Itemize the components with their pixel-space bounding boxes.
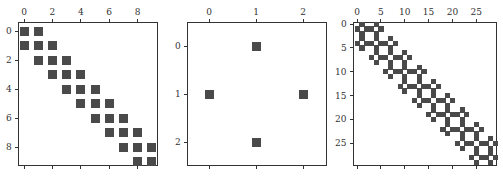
nonzero-marker [105, 128, 114, 137]
nonzero-marker [34, 27, 43, 36]
nonzero-marker [299, 90, 308, 99]
nonzero-marker [105, 114, 114, 123]
tick-mark [209, 166, 210, 169]
nonzero-marker [388, 74, 393, 79]
tick-mark [303, 166, 304, 169]
nonzero-marker [450, 98, 455, 103]
nonzero-marker [493, 141, 498, 146]
nonzero-marker [147, 157, 156, 166]
y-tick-label: 2 [175, 138, 181, 147]
nonzero-marker [445, 131, 450, 136]
tick-mark [184, 46, 187, 47]
nonzero-marker [479, 127, 484, 132]
tick-mark [15, 31, 18, 32]
tick-mark [24, 166, 25, 169]
nonzero-marker [133, 157, 142, 166]
x-tick-label: 8 [135, 8, 141, 17]
tick-mark [52, 166, 53, 169]
nonzero-marker [378, 26, 383, 31]
y-tick-label: 8 [6, 143, 12, 152]
tick-mark [404, 19, 405, 22]
nonzero-marker [105, 99, 114, 108]
nonzero-marker [252, 138, 261, 147]
tick-mark [109, 166, 110, 169]
y-tick-label: 4 [6, 85, 12, 94]
nonzero-marker [464, 112, 469, 117]
tick-mark [52, 19, 53, 22]
tick-mark [184, 94, 187, 95]
y-tick-label: 25 [335, 139, 346, 148]
x-tick-label: 0 [354, 8, 360, 17]
tick-mark [15, 147, 18, 148]
y-tick-label: 6 [6, 114, 12, 123]
y-tick-label: 0 [6, 27, 12, 36]
tick-mark [404, 166, 405, 169]
tick-mark [15, 118, 18, 119]
tick-mark [476, 166, 477, 169]
nonzero-marker [91, 99, 100, 108]
tick-mark [209, 19, 210, 22]
nonzero-marker [407, 55, 412, 60]
tick-mark [350, 119, 353, 120]
nonzero-marker [119, 143, 128, 152]
nonzero-marker [402, 88, 407, 93]
tick-mark [15, 89, 18, 90]
nonzero-marker [62, 85, 71, 94]
nonzero-marker [34, 56, 43, 65]
nonzero-marker [493, 155, 498, 160]
nonzero-marker [417, 103, 422, 108]
tick-mark [256, 19, 257, 22]
nonzero-marker [359, 45, 364, 50]
axes-box [353, 22, 497, 166]
tick-mark [380, 166, 381, 169]
x-tick-label: 2 [50, 8, 56, 17]
tick-mark [137, 166, 138, 169]
nonzero-marker [119, 114, 128, 123]
x-tick-label: 0 [21, 8, 27, 17]
nonzero-marker [91, 114, 100, 123]
x-tick-label: 0 [206, 8, 212, 17]
nonzero-marker [48, 56, 57, 65]
x-tick-label: 10 [399, 8, 410, 17]
nonzero-marker [34, 41, 43, 50]
tick-mark [80, 166, 81, 169]
tick-mark [428, 19, 429, 22]
tick-mark [109, 19, 110, 22]
y-tick-label: 20 [335, 115, 346, 124]
tick-mark [80, 19, 81, 22]
tick-mark [350, 71, 353, 72]
tick-mark [380, 19, 381, 22]
tick-mark [357, 19, 358, 22]
nonzero-marker [252, 42, 261, 51]
y-tick-label: 1 [175, 90, 181, 99]
y-tick-label: 10 [335, 67, 346, 76]
tick-mark [350, 47, 353, 48]
nonzero-marker [76, 70, 85, 79]
y-tick-label: 0 [175, 42, 181, 51]
tick-mark [452, 19, 453, 22]
tick-mark [303, 19, 304, 22]
nonzero-marker [460, 146, 465, 151]
nonzero-marker [147, 143, 156, 152]
nonzero-marker [374, 60, 379, 65]
nonzero-marker [474, 160, 479, 165]
nonzero-marker [91, 85, 100, 94]
x-tick-label: 5 [378, 8, 384, 17]
tick-mark [452, 166, 453, 169]
nonzero-marker [133, 128, 142, 137]
tick-mark [137, 19, 138, 22]
x-tick-label: 2 [300, 8, 306, 17]
nonzero-marker [488, 160, 493, 165]
y-tick-label: 0 [341, 20, 347, 29]
tick-mark [15, 60, 18, 61]
nonzero-marker [62, 56, 71, 65]
x-tick-label: 6 [106, 8, 112, 17]
y-tick-label: 5 [341, 43, 347, 52]
x-tick-label: 4 [78, 8, 84, 17]
tick-mark [256, 166, 257, 169]
tick-mark [24, 19, 25, 22]
tick-mark [350, 24, 353, 25]
nonzero-marker [20, 27, 29, 36]
nonzero-marker [431, 117, 436, 122]
tick-mark [350, 143, 353, 144]
